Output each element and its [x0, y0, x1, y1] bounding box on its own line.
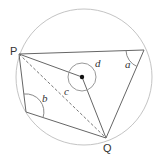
dashed-chord-pq — [19, 54, 106, 138]
radius-o-p — [19, 54, 82, 77]
chord-s-q — [26, 112, 106, 138]
chord-p-s — [19, 54, 26, 112]
label-b: b — [42, 92, 48, 104]
label-a: a — [125, 58, 131, 70]
label-p: P — [10, 45, 17, 57]
chord-p-r — [19, 50, 144, 54]
circle-geometry-diagram: P Q d a b c — [0, 0, 159, 163]
label-q: Q — [103, 142, 112, 154]
radius-o-q — [82, 77, 106, 138]
label-c: c — [64, 85, 69, 97]
center-dot — [80, 75, 84, 79]
label-d: d — [95, 57, 101, 69]
